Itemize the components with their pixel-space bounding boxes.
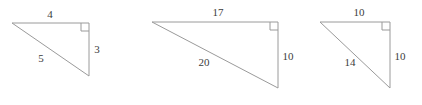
triangle-10-17-20-right-leg-label: 10 xyxy=(283,50,295,62)
triangles-svg: 4 3 5 17 10 20 10 10 14 xyxy=(0,0,422,105)
triangle-10-10-14-right-leg-label: 10 xyxy=(395,50,407,62)
triangle-3-4-5-top-leg-label: 4 xyxy=(47,8,53,20)
triangle-3-4-5: 4 3 5 xyxy=(12,8,100,76)
triangle-10-10-14-top-leg-label: 10 xyxy=(354,6,366,18)
triangle-10-10-14: 10 10 14 xyxy=(320,6,406,88)
triangles-figure: 4 3 5 17 10 20 10 10 14 xyxy=(0,0,422,105)
triangle-10-17-20: 17 10 20 xyxy=(152,6,294,88)
triangle-10-10-14-hypotenuse-label: 14 xyxy=(345,56,357,68)
triangle-10-17-20-hypotenuse-label: 20 xyxy=(199,56,211,68)
triangle-10-17-20-top-leg-label: 17 xyxy=(213,6,225,18)
triangle-3-4-5-right-leg-label: 3 xyxy=(94,43,100,55)
triangle-3-4-5-hypotenuse-label: 5 xyxy=(38,52,44,64)
